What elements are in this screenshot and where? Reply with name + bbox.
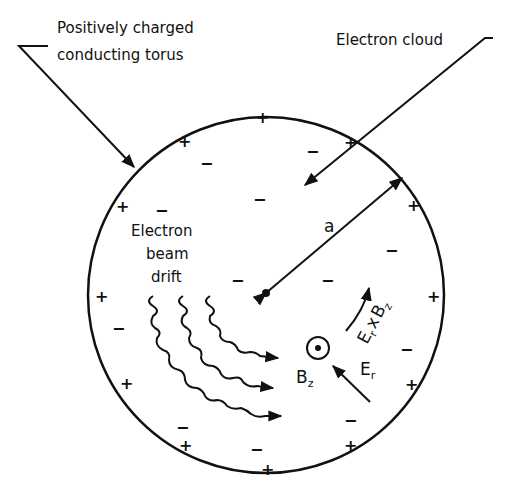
center-dot [262,289,270,297]
beam-label-line2: beam [146,245,189,263]
minus-charge: − [344,411,357,430]
plus-charge: + [256,108,269,127]
drift-arrow-inner [206,296,278,358]
plus-charge: + [95,287,108,306]
bfield-label: Bz [296,367,314,390]
plus-charge: + [179,436,192,455]
plus-charge: + [405,375,418,394]
minus-charge: − [231,271,244,290]
minus-charge: − [253,190,266,209]
svg-text:ErxBz: ErxBz [353,296,395,348]
minus-charge: − [400,340,413,359]
plus-charge: + [407,196,420,215]
bfield-dot [315,345,321,351]
torus-leader-arrow [19,46,134,167]
electron-cloud-torus-diagram: Positively charged conducting torus Elec… [0,0,507,493]
plus-charge: + [427,287,440,306]
torus-label-line2: conducting torus [57,46,184,64]
torus-label-line1: Positively charged [57,19,194,37]
radius-label: a [324,216,334,236]
plus-charge: + [120,374,133,393]
cloud-leader-arrow [305,38,493,185]
minus-charge: − [155,201,168,220]
cloud-label: Electron cloud [336,31,443,49]
plus-charge: + [344,133,357,152]
efield-label: Er [360,359,376,382]
minus-charge: − [250,440,263,459]
minus-charge: − [176,418,189,437]
beam-label-line1: Electron [131,222,193,240]
minus-charge: − [385,241,398,260]
minus-charge: − [112,319,125,338]
plus-charge: + [261,460,274,479]
minus-charge: − [200,154,213,173]
plus-charge: + [344,436,357,455]
minus-charge: − [321,271,334,290]
beam-label-line3: drift [151,268,182,286]
exb-label: ErxBz [353,296,395,348]
minus-charge: − [306,142,319,161]
plus-charge: + [116,197,129,216]
plus-charge: + [178,132,191,151]
minus-charges: − − − − − − − − − − − − [112,142,413,459]
